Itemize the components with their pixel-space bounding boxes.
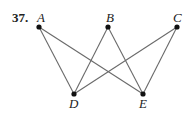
graph-diagram: 37. ABCDE xyxy=(0,0,190,115)
edges xyxy=(39,27,177,94)
vertex-label-b: B xyxy=(106,10,114,25)
vertex-label-c: C xyxy=(173,10,182,25)
vertex-label-e: E xyxy=(138,96,147,111)
edge-b-d xyxy=(74,27,108,94)
problem-number: 37. xyxy=(12,10,28,25)
edge-a-d xyxy=(39,27,74,94)
vertex-c xyxy=(174,24,179,29)
vertex-label-a: A xyxy=(36,10,45,25)
vertex-label-d: D xyxy=(68,96,79,111)
vertex-a xyxy=(36,24,41,29)
vertex-b xyxy=(105,24,110,29)
edge-c-e xyxy=(143,27,177,94)
edge-c-d xyxy=(74,27,177,94)
